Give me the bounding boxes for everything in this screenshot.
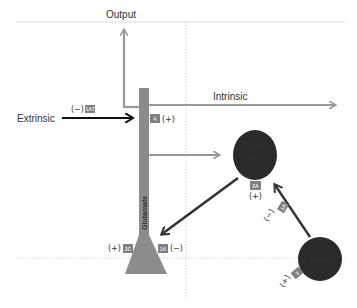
diagram-canvas: Output Intrinsic Glutamate Extrinsic (−)… [0, 0, 357, 308]
gaba-neuron-label: GABA [309, 255, 332, 264]
receptor-1a7-sign: (−) [71, 105, 84, 114]
receptor-2c-sign: (+) [108, 244, 121, 253]
receptor-1a-column-sign: (−) [170, 244, 183, 253]
pv-neuron-sublabel: PV+ [248, 156, 261, 163]
receptor-2c-code: 2C [125, 246, 132, 252]
receptor-1a7-code: 1A7 [85, 106, 94, 112]
receptor-2a-code: 2A [252, 183, 259, 189]
pv-neuron-label: GABA [245, 143, 265, 150]
output-label: Output [106, 9, 136, 20]
receptor-1a-column-code: 1A [160, 246, 167, 252]
extrinsic-label: Extrinsic [17, 113, 55, 124]
intrinsic-label: Intrinsic [213, 91, 247, 102]
receptor-1a-gaba-sign: (−) [262, 207, 276, 223]
receptor-4-sign: (+) [162, 115, 175, 124]
receptor-3-sign: (+) [278, 273, 292, 289]
receptor-4-code: 4 [154, 116, 157, 122]
pv-neuron [233, 130, 277, 180]
receptor-2a-sign: (+) [249, 192, 262, 201]
pv-to-glutamate-arrow [162, 178, 238, 234]
glutamate-label: Glutamate [141, 196, 148, 230]
glutamate-soma [125, 235, 167, 274]
